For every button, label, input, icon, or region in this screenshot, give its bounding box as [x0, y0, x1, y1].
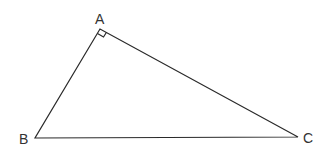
triangle-abc: [35, 29, 298, 138]
triangle-diagram: A B C: [0, 0, 332, 153]
vertex-label-c: C: [303, 130, 313, 146]
right-angle-marker: [98, 32, 107, 37]
vertex-label-a: A: [95, 11, 105, 27]
vertex-label-b: B: [19, 131, 28, 147]
